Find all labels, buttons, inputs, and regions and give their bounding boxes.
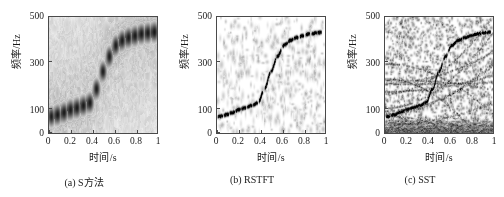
tfd-heatmap-c [385,17,493,133]
xtick-c-4 [473,130,474,133]
panel-b: 500 300 100 0 0 0.2 0.4 0.6 0.8 1 频率/Hz … [168,0,336,197]
plot-area-c [384,16,494,134]
caption-a: (a) S方法 [0,174,168,189]
x-axis-title-c: 时间/s [384,149,494,164]
xtick-c-3 [451,130,452,133]
xtick-b-2 [261,130,262,133]
xtick-a-3 [115,130,116,133]
ytick-c-100 [385,108,388,109]
ytick-label-c-100: 100 [346,105,380,116]
ytick-label-b-100: 100 [178,105,212,116]
xtick-b-1 [239,130,240,133]
panel-a: 500 300 100 0 0 0.2 0.4 0.6 0.8 1 频率/Hz … [0,0,168,197]
ytick-c-300 [385,61,388,62]
xtick-a-4 [137,130,138,133]
plot-area-b [216,16,326,134]
y-axis-title-b: 频率/Hz [176,21,191,83]
xtick-a-1 [71,130,72,133]
xtick-b-4 [305,130,306,133]
ytick-b-0 [217,132,220,133]
xtick-c-1 [407,130,408,133]
ytick-a-0 [49,132,52,133]
x-axis-title-b: 时间/s [216,149,326,164]
caption-c: (c) SST [336,174,504,185]
plot-area-a [48,16,158,134]
ytick-b-300 [217,61,220,62]
ytick-b-100 [217,108,220,109]
xtick-label-c-5: 1 [481,136,504,147]
y-axis-title-c: 频率/Hz [344,21,359,83]
xtick-b-3 [283,130,284,133]
ytick-a-100 [49,108,52,109]
ytick-c-0 [385,132,388,133]
ytick-label-a-100: 100 [10,105,44,116]
xtick-c-2 [429,130,430,133]
ytick-a-300 [49,61,52,62]
caption-b: (b) RSTFT [168,174,336,185]
y-axis-title-a: 频率/Hz [8,21,23,83]
panel-c: 500 300 100 0 0 0.2 0.4 0.6 0.8 1 频率/Hz … [336,0,504,197]
figure-three-panel-tfd: 500 300 100 0 0 0.2 0.4 0.6 0.8 1 频率/Hz … [0,0,504,197]
tfd-heatmap-a [49,17,157,133]
xtick-a-2 [93,130,94,133]
tfd-heatmap-b [217,17,325,133]
x-axis-title-a: 时间/s [48,149,158,164]
